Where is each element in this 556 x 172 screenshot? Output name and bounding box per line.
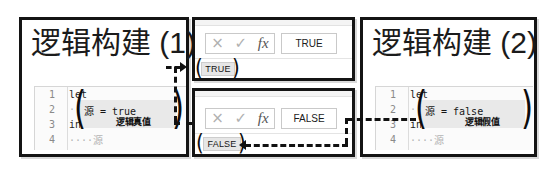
cancel-icon[interactable]: × (211, 111, 224, 126)
connector-false-vertical (345, 118, 348, 144)
connector-false-bottom-horizontal (245, 144, 348, 147)
grid-divider (195, 58, 352, 59)
line-number: 4 (376, 134, 402, 145)
line-number: 1 (376, 89, 402, 100)
page-title-right: 逻辑构建 (2) (372, 26, 537, 60)
line-text: let (402, 89, 533, 100)
sheet-header-strip (195, 91, 352, 97)
code-line: 4 ····源 (376, 132, 533, 147)
grid-divider (195, 133, 352, 134)
function-icon[interactable]: fx (258, 111, 269, 126)
formula-cell-value-true[interactable]: TRUE (281, 33, 337, 54)
confirm-icon[interactable]: ✓ (235, 36, 248, 51)
line-number: 2 (35, 104, 61, 115)
confirm-icon[interactable]: ✓ (235, 111, 248, 126)
function-icon[interactable]: fx (258, 36, 269, 51)
connector-true-vertical (174, 67, 177, 122)
highlight-note-right: 逻辑假值 (465, 115, 500, 128)
sheet-header-strip (195, 20, 352, 26)
line-number: 2 (376, 104, 402, 115)
line-text: ····源 (61, 132, 186, 147)
formula-toolbar-false: × ✓ fx (205, 108, 275, 129)
line-text: let (61, 89, 186, 100)
formula-toolbar-true: × ✓ fx (205, 33, 275, 54)
panel-formula-bar-true: × ✓ fx TRUE TRUE ( ) (192, 17, 355, 81)
line-text: ····源 (402, 132, 533, 147)
code-line: 4 ····源 (35, 132, 186, 147)
panel-logic-construct-2: 逻辑构建 (2) 1 let 2 ···· 3 in 4 ····源 源 = f… (360, 17, 537, 157)
cancel-icon[interactable]: × (211, 36, 224, 51)
line-number: 4 (35, 134, 61, 145)
connector-false-arrowhead (239, 140, 246, 150)
diagram-canvas: 逻辑构建 (1) 1 let 2 ···· 3 in 4 ····源 源 = t… (0, 0, 556, 172)
page-title-left: 逻辑构建 (1) (31, 26, 196, 60)
highlight-note-left: 逻辑真值 (116, 115, 151, 128)
connector-true-lower-stub (174, 122, 192, 125)
line-number: 3 (35, 119, 61, 130)
connector-true-arrowhead (180, 62, 187, 72)
line-number: 1 (35, 89, 61, 100)
badge-true: TRUE (201, 62, 235, 76)
formula-cell-value-false[interactable]: FALSE (281, 108, 337, 129)
connector-false-top-horizontal (348, 118, 416, 121)
badge-false: FALSE (203, 137, 241, 151)
connector-true-horizontal (166, 66, 180, 69)
panel-logic-construct-1: 逻辑构建 (1) 1 let 2 ···· 3 in 4 ····源 源 = t… (19, 17, 189, 157)
